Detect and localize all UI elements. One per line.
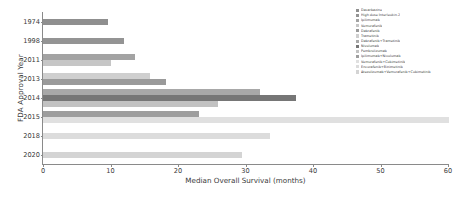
legend-label: Encorafenib+Binimetinib <box>361 65 403 69</box>
legend-swatch-icon <box>356 70 359 73</box>
y-tick-label: 2014 <box>23 94 40 101</box>
x-tick-label: 10 <box>106 168 114 175</box>
y-axis-label: FDA Approval Year <box>15 12 27 164</box>
legend-item[interactable]: Atezolizumab+Vemurafenib+Cobimetinib <box>356 70 464 75</box>
legend-swatch-icon <box>356 55 359 58</box>
legend-label: Ipilimumab <box>361 18 380 22</box>
y-tick-label: 1974 <box>23 18 40 25</box>
legend-item[interactable]: Trametinib <box>356 34 464 39</box>
x-tick-label: 60 <box>444 168 452 175</box>
x-tick-label: 40 <box>309 168 317 175</box>
y-tick-label: 2015 <box>23 113 40 120</box>
bar <box>43 133 270 139</box>
legend-swatch-icon <box>356 9 359 12</box>
legend-label: Nivolumab <box>361 44 379 48</box>
x-tick-label: 20 <box>174 168 182 175</box>
y-tick-label: 1998 <box>23 37 40 44</box>
bar <box>43 19 108 25</box>
bar <box>43 152 242 158</box>
legend-label: Ipilimumab+Nivolumab <box>361 54 400 58</box>
legend-label: High dose Interleukin-2 <box>361 13 400 17</box>
bar <box>43 79 166 85</box>
legend-label: Dabrafenib <box>361 29 380 33</box>
y-tick-label: 2013 <box>23 75 40 82</box>
bar <box>43 101 218 107</box>
legend-label: Vemurafenib <box>361 24 382 28</box>
legend-item[interactable]: Nivolumab <box>356 44 464 49</box>
legend-item[interactable]: Dabrafenib <box>356 29 464 34</box>
legend-label: Vemurafenib+Cobimetinib <box>361 60 405 64</box>
legend-swatch-icon <box>356 65 359 68</box>
legend-swatch-icon <box>356 24 359 27</box>
legend-item[interactable]: High dose Interleukin-2 <box>356 13 464 18</box>
legend-item[interactable]: Dacarbazine <box>356 8 464 13</box>
legend-label: Atezolizumab+Vemurafenib+Cobimetinib <box>361 70 431 74</box>
y-tick-label: 2020 <box>23 151 40 158</box>
legend-item[interactable]: Ipilimumab+Nivolumab <box>356 54 464 59</box>
y-tick-label: 2018 <box>23 132 40 139</box>
legend-label: Trametinib <box>361 34 379 38</box>
legend-swatch-icon <box>356 40 359 43</box>
legend-swatch-icon <box>356 14 359 17</box>
chart-legend: DacarbazineHigh dose Interleukin-2Ipilim… <box>356 8 464 75</box>
legend-item[interactable]: Vemurafenib <box>356 23 464 28</box>
legend-item[interactable]: Vemurafenib+Cobimetinib <box>356 59 464 64</box>
x-tick-label: 50 <box>376 168 384 175</box>
legend-swatch-icon <box>356 34 359 37</box>
legend-item[interactable]: Encorafenib+Binimetinib <box>356 65 464 70</box>
legend-swatch-icon <box>356 50 359 53</box>
bar <box>43 38 124 44</box>
y-tick-label: 2011 <box>23 56 40 63</box>
chart-figure: FDA Approval Year Median Overall Surviva… <box>0 0 468 198</box>
legend-label: Pembrolizumab <box>361 49 387 53</box>
legend-swatch-icon <box>356 19 359 22</box>
legend-label: Dabrafenib+Trametinib <box>361 39 400 43</box>
bar <box>43 60 111 66</box>
legend-swatch-icon <box>356 60 359 63</box>
legend-item[interactable]: Pembrolizumab <box>356 49 464 54</box>
legend-item[interactable]: Dabrafenib+Trametinib <box>356 39 464 44</box>
legend-swatch-icon <box>356 45 359 48</box>
x-tick-label: 0 <box>41 168 45 175</box>
legend-item[interactable]: Ipilimumab <box>356 18 464 23</box>
bar <box>43 117 449 123</box>
legend-swatch-icon <box>356 29 359 32</box>
legend-label: Dacarbazine <box>361 8 382 12</box>
x-tick-label: 30 <box>241 168 249 175</box>
x-axis-label: Median Overall Survival (months) <box>43 177 448 185</box>
